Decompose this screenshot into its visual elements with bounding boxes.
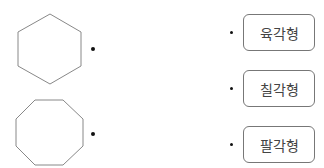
label-text: 육각형: [260, 23, 299, 43]
label-dot-2[interactable]: [230, 87, 233, 90]
hexagon-shape: [15, 12, 85, 86]
label-octagon[interactable]: 팔각형: [243, 126, 315, 163]
label-text: 칠각형: [260, 79, 299, 99]
hexagon-connect-dot[interactable]: [91, 47, 95, 51]
octagon-connect-dot[interactable]: [91, 132, 95, 136]
label-hexagon[interactable]: 육각형: [243, 14, 315, 51]
label-dot-1[interactable]: [230, 31, 233, 34]
octagon-shape: [14, 98, 86, 168]
label-heptagon[interactable]: 칠각형: [243, 70, 315, 107]
label-dot-3[interactable]: [230, 143, 233, 146]
label-text: 팔각형: [260, 135, 299, 155]
